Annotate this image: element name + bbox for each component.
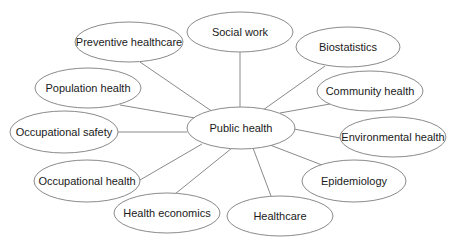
node-social-work: Social work (187, 12, 293, 52)
public-health-mind-map: Preventive healthcareSocial workBiostati… (0, 0, 457, 247)
node-health-economics: Health economics (114, 193, 220, 233)
center-node-public-health: Public health (187, 107, 295, 149)
node-community-health: Community health (317, 71, 423, 111)
node-label: Occupational safety (16, 126, 113, 138)
edge-epidemiology (270, 145, 322, 165)
node-label: Health economics (123, 207, 211, 219)
node-label: Epidemiology (321, 175, 388, 187)
node-label: Community health (326, 85, 415, 97)
node-biostatistics: Biostatistics (296, 27, 400, 67)
node-epidemiology: Epidemiology (302, 160, 406, 202)
node-label: Population health (45, 82, 130, 94)
edge-community-health (280, 104, 330, 113)
node-label: Social work (212, 26, 269, 38)
edge-healthcare (253, 148, 271, 196)
node-label: Healthcare (253, 210, 306, 222)
node-label: Preventive healthcare (76, 36, 182, 48)
node-occupational-health: Occupational health (34, 160, 140, 202)
edge-occupational-health (140, 144, 202, 180)
node-label: Biostatistics (319, 41, 378, 53)
node-preventive-healthcare: Preventive healthcare (75, 22, 183, 62)
center-node-label: Public health (210, 122, 273, 134)
edge-biostatistics (263, 66, 325, 110)
edge-environmental-health (294, 129, 340, 138)
node-label: Occupational health (38, 175, 135, 187)
node-population-health: Population health (35, 68, 141, 108)
edge-preventive-healthcare (140, 62, 213, 112)
node-environmental-health: Environmental health (340, 117, 446, 157)
node-healthcare: Healthcare (227, 196, 333, 236)
edge-population-health (120, 105, 195, 118)
node-occupational-safety: Occupational safety (10, 111, 118, 153)
node-label: Environmental health (341, 131, 444, 143)
